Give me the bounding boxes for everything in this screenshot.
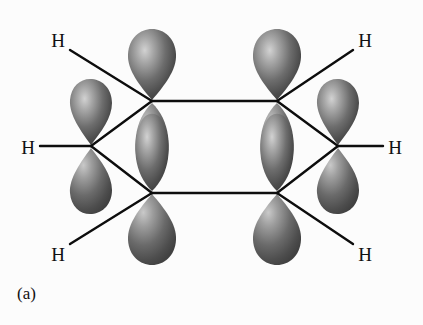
hydrogen-label-h2: H — [51, 31, 65, 50]
hydrogen-label-h4: H — [388, 138, 402, 157]
orbital-lobe-up-c6 — [135, 114, 168, 191]
hydrogen-label-h1: H — [21, 138, 35, 157]
hydrogen-label-h6: H — [51, 245, 65, 264]
orbital-lobe-group-back — [135, 103, 293, 191]
panel-caption: (a) — [17, 285, 36, 302]
ring-bond-group — [91, 101, 338, 193]
orbital-lobe-group-front — [70, 29, 359, 265]
orbital-diagram-figure: H H H H H H (a) — [0, 0, 423, 325]
hydrogen-label-h5: H — [358, 245, 372, 264]
hydrogen-label-h3: H — [358, 31, 372, 50]
orbital-lobe-up-c5 — [260, 114, 293, 191]
